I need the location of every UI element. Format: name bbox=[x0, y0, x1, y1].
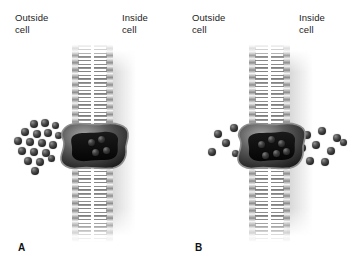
solute-particle bbox=[222, 139, 230, 147]
label-outside-cell: Outside cell bbox=[192, 12, 225, 35]
solute-particle-in-channel bbox=[283, 148, 290, 155]
solute-particle bbox=[24, 157, 32, 165]
label-inside-cell: Inside cell bbox=[299, 12, 325, 35]
solute-particle-in-channel bbox=[273, 150, 280, 157]
solute-particle-in-channel bbox=[88, 139, 95, 146]
solute-particle bbox=[208, 148, 216, 156]
solute-particle-in-channel bbox=[262, 152, 269, 159]
solute-particle bbox=[44, 129, 52, 137]
solute-particle bbox=[21, 128, 29, 136]
channel-protein bbox=[57, 119, 131, 174]
solute-particle bbox=[36, 158, 44, 166]
panel-a: Outside cell Inside cell bbox=[0, 0, 176, 274]
solute-particle bbox=[38, 139, 46, 147]
solute-particle bbox=[18, 147, 26, 155]
solute-particle bbox=[340, 139, 347, 146]
solute-particle-in-channel bbox=[98, 136, 105, 143]
solute-particle bbox=[321, 158, 329, 166]
solute-particle bbox=[30, 120, 38, 128]
solute-particle bbox=[318, 127, 326, 135]
label-inside-cell: Inside cell bbox=[122, 12, 148, 35]
solute-particle bbox=[327, 147, 335, 155]
solute-particle-in-channel bbox=[258, 141, 265, 148]
label-outside-cell: Outside cell bbox=[15, 12, 48, 35]
panel-b: Outside cell Inside cell bbox=[177, 0, 353, 274]
solute-particle bbox=[214, 130, 222, 138]
channel-protein bbox=[234, 119, 308, 174]
solute-particle bbox=[312, 141, 320, 149]
solute-particle bbox=[14, 137, 22, 145]
solute-particle bbox=[26, 138, 34, 146]
panel-letter-a: A bbox=[18, 242, 25, 253]
solute-particle bbox=[41, 119, 49, 127]
solute-particle bbox=[49, 141, 57, 149]
solute-particle-in-channel bbox=[92, 149, 99, 156]
solute-particle-in-channel bbox=[278, 140, 285, 147]
panel-letter-b: B bbox=[195, 242, 202, 253]
solute-particle-in-channel bbox=[268, 136, 275, 143]
solute-particle bbox=[31, 167, 39, 175]
solute-particle bbox=[30, 148, 38, 156]
membrane-transport-figure: Outside cell Inside cell bbox=[0, 0, 353, 274]
solute-particle-in-channel bbox=[103, 147, 110, 154]
solute-particle bbox=[33, 130, 41, 138]
solute-particle bbox=[48, 155, 55, 162]
